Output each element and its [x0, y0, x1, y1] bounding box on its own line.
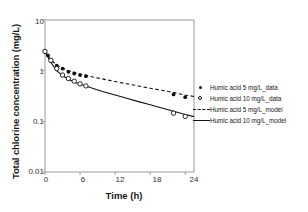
legend-label: Humic acid 10 mg/L_model — [210, 117, 286, 124]
chart-figure: Total chlorine concentration (mg/L) 10 1… — [0, 0, 308, 212]
legend-label: Humic acid 5 mg/L_model — [210, 106, 283, 113]
legend-item-humic-10-data: Humic acid 10 mg/L_data — [193, 93, 308, 104]
solid-line-icon — [193, 115, 210, 126]
legend-label: Humic acid 10 mg/L_data — [210, 95, 281, 102]
legend-item-humic-5-data: Humic acid 5 mg/L_data — [193, 82, 308, 93]
dashed-line-icon — [193, 104, 210, 115]
chart-legend: Humic acid 5 mg/L_data Humic acid 10 mg/… — [193, 82, 308, 126]
legend-item-humic-10-model: Humic acid 10 mg/L_model — [193, 115, 308, 126]
filled-circle-marker-icon — [193, 82, 210, 93]
x-axis-label: Time (h) — [44, 190, 204, 201]
legend-label: Humic acid 5 mg/L_data — [210, 84, 278, 91]
open-circle-marker-icon — [193, 93, 210, 104]
legend-item-humic-5-model: Humic acid 5 mg/L_model — [193, 104, 308, 115]
